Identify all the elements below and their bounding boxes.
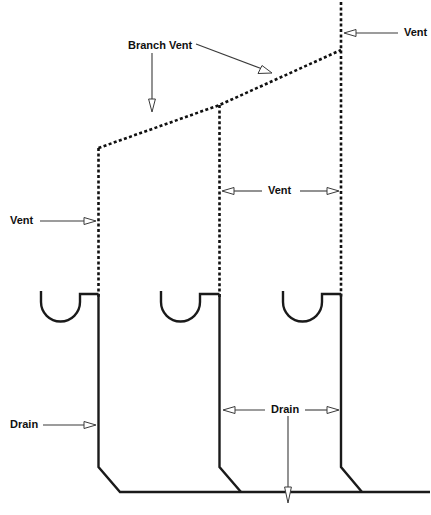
drain-stack-middle xyxy=(220,294,242,492)
drain-left-arrow-head-icon xyxy=(84,422,96,429)
vent-middle-arrow-head-right-icon xyxy=(327,188,339,195)
branch-vent-arrow-head-diagonal-icon xyxy=(258,66,272,74)
branch-vent-label: Branch Vent xyxy=(128,39,193,51)
drain-middle-label: Drain xyxy=(271,403,299,415)
annotation-vent-left: Vent xyxy=(10,214,96,226)
annotation-drain-left: Drain xyxy=(10,418,96,430)
annotation-vent-middle: Vent xyxy=(222,184,339,196)
drain-middle-arrow-head-left-icon xyxy=(223,407,235,414)
branch-vent-arrow-head-vertical-icon xyxy=(149,99,156,112)
vent-top-right-arrow-head-icon xyxy=(344,30,356,37)
drain-stack-left xyxy=(99,294,431,492)
vent-left-label: Vent xyxy=(10,214,34,226)
vent-middle-arrow-head-left-icon xyxy=(222,188,234,195)
drain-piping-group xyxy=(41,291,430,492)
plumbing-diagram: Plumbing Vent and Drain Diagram xyxy=(0,0,431,515)
branch-vent-arrow-shaft-diagonal xyxy=(196,44,265,70)
vent-left-arrow-head-icon xyxy=(84,218,96,225)
drain-left-label: Drain xyxy=(10,418,38,430)
annotation-branch-vent: Branch Vent xyxy=(128,39,272,112)
drain-stack-right xyxy=(341,294,362,492)
annotation-drain-middle: Drain xyxy=(223,403,339,503)
annotation-vent-top-right: Vent xyxy=(344,26,428,38)
drain-middle-arrow-head-down-icon xyxy=(285,487,292,503)
drain-middle-arrow-head-right-icon xyxy=(327,407,339,414)
fixture-trap-left xyxy=(41,291,99,322)
fixture-trap-middle xyxy=(161,291,220,322)
vent-top-right-label: Vent xyxy=(404,26,428,38)
vent-middle-label: Vent xyxy=(268,184,292,196)
diagram-canvas: Plumbing Vent and Drain Diagram xyxy=(0,0,431,515)
fixture-trap-right xyxy=(283,291,341,322)
